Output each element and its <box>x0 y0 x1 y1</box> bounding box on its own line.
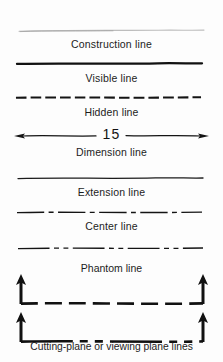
caption-hidden-line: Hidden line <box>0 106 223 119</box>
dimension-value: 15 <box>0 126 223 142</box>
center-line-graphic <box>0 206 223 220</box>
line-row-cutting-plane: Phantom line Cutting-plane or vi <box>0 262 223 306</box>
dimension-line-graphic: 15 <box>0 126 223 148</box>
phantom-line-svg <box>17 244 204 252</box>
extension-line-svg <box>17 174 204 182</box>
visible-line-svg <box>16 59 203 68</box>
caption-cutting-plane-lines: Cutting-plane or viewing plane lines <box>0 340 223 353</box>
line-row-phantom <box>0 242 223 256</box>
caption-construction-line: Construction line <box>0 38 223 51</box>
line-row-dimension: 15 Dimension line <box>0 126 223 159</box>
line-row-visible: Visible line <box>0 58 223 85</box>
alphabet-of-lines-figure: Construction line Visible line Hidden li… <box>0 0 223 362</box>
center-line-svg <box>16 208 203 216</box>
line-row-construction: Construction line <box>0 24 223 51</box>
caption-visible-line: Visible line <box>0 72 223 85</box>
caption-center-line: Center line <box>0 220 223 233</box>
hidden-line-graphic <box>0 92 223 106</box>
line-row-center: Center line <box>0 206 223 233</box>
line-row-extension: Extension line <box>0 172 223 199</box>
construction-line-svg <box>18 26 205 34</box>
construction-line-graphic <box>0 24 223 38</box>
phantom-line-graphic <box>0 242 223 256</box>
extension-line-graphic <box>0 172 223 186</box>
cutting-plane-graphics: Phantom line Cutting-plane or vi <box>0 262 223 306</box>
caption-extension-line: Extension line <box>0 186 223 199</box>
hidden-line-svg <box>15 93 202 102</box>
line-row-hidden: Hidden line <box>0 92 223 119</box>
visible-line-graphic <box>0 58 223 72</box>
cutting-plane-line-a-svg <box>14 274 210 306</box>
